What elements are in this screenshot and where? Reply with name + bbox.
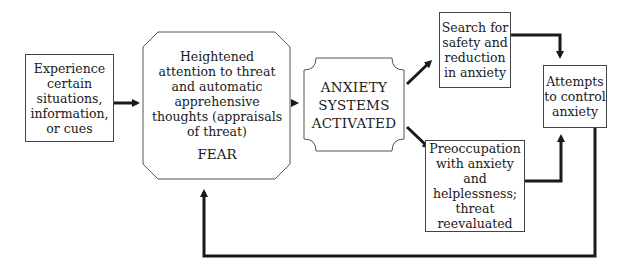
text-line: reduction xyxy=(444,50,505,65)
text-line: reevaluated xyxy=(437,216,512,231)
text-line: or cues xyxy=(46,121,92,136)
text-line: Heightened xyxy=(180,49,254,64)
node-attention: Heightened attention to threat and autom… xyxy=(143,32,291,179)
text-line: helplessness; xyxy=(433,186,517,201)
text-line: thoughts (appraisals xyxy=(152,109,282,124)
text-line: to control xyxy=(544,89,606,104)
fear-label: FEAR xyxy=(197,147,236,162)
text-line: certain xyxy=(47,76,92,91)
text-line: and automatic xyxy=(172,79,263,94)
text-line: information, xyxy=(30,106,108,121)
text-line: ACTIVATED xyxy=(312,114,397,132)
arrow-search-to-control xyxy=(511,35,560,56)
text-line: SYSTEMS xyxy=(318,96,389,114)
text-line: safety and xyxy=(442,35,507,50)
node-experience: Experience certain situations, informati… xyxy=(25,54,114,142)
text-line: apprehensive xyxy=(174,94,259,109)
node-preoccupation: Preoccupation with anxiety and helplessn… xyxy=(425,140,525,232)
text-line: in anxiety xyxy=(444,65,506,80)
text-line: attention to threat xyxy=(159,64,276,79)
text-line: Attempts xyxy=(546,74,604,89)
node-search-safety: Search for safety and reduction in anxie… xyxy=(439,12,511,88)
arrow-activated-to-search xyxy=(407,62,430,84)
node-anxiety-systems-activated: ANXIETY SYSTEMS ACTIVATED xyxy=(304,58,404,151)
text-line: ANXIETY xyxy=(321,78,387,96)
node-attempts-control: Attempts to control anxiety xyxy=(543,65,607,128)
arrow-preoccupation-to-control xyxy=(525,137,561,181)
text-line: Search for xyxy=(442,20,509,35)
text-line: Preoccupation xyxy=(429,141,520,156)
text-line: of threat) xyxy=(187,124,247,139)
text-line: situations, xyxy=(37,91,103,106)
text-line: with anxiety and xyxy=(426,156,524,186)
text-line: Experience xyxy=(34,61,105,76)
text-line: anxiety xyxy=(552,104,598,119)
text-line: threat xyxy=(456,201,495,216)
